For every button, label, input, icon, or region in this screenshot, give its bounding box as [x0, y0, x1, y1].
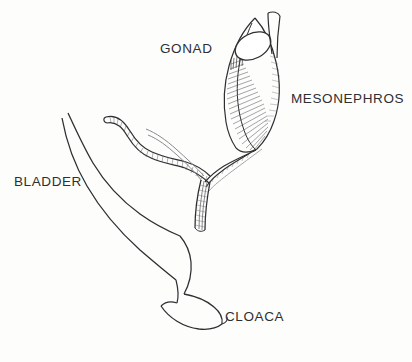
oviduct-wall-lower	[107, 123, 209, 183]
right-duct-companion	[209, 149, 262, 191]
label-gonad: GONAD	[160, 41, 213, 56]
oviduct-striations	[110, 117, 207, 182]
mesonephros-lateral-hatching	[265, 56, 280, 121]
duct-tip-joint	[268, 12, 280, 16]
cloaca-left-horn	[161, 302, 177, 306]
cloaca-right-wall	[184, 294, 222, 324]
wolffian-duct-upper-limb	[146, 129, 204, 181]
label-mesonephros: MESONEPHROS	[291, 91, 404, 106]
mesonephric-tubule-hatching	[227, 60, 268, 150]
bladder-neck	[176, 280, 178, 303]
bundle-terminus	[195, 228, 205, 231]
urogenital-diagram: GONAD MESONEPHROS BLADDER CLOACA	[0, 0, 412, 362]
right-duct-striations	[212, 153, 249, 182]
mesonephric-duct-right-limb	[205, 149, 262, 191]
bladder-ventral-wall	[180, 236, 191, 294]
common-duct-bundle	[195, 180, 210, 231]
label-cloaca: CLOACA	[225, 309, 284, 324]
duct-tip-lateral	[277, 16, 280, 58]
mullerian-duct-wavy-tube	[104, 116, 210, 183]
cranial-duct-tips	[268, 12, 280, 58]
bladder-outline	[62, 113, 191, 303]
oviduct-wall-upper	[106, 116, 210, 176]
oviduct-tip	[104, 117, 107, 123]
cloaca-lower-wall	[161, 306, 222, 329]
wolffian-upper-b	[148, 135, 202, 181]
bladder-dorsal-wall	[62, 118, 176, 280]
label-bladder: BLADDER	[14, 174, 82, 189]
cloaca-outline	[161, 294, 227, 329]
